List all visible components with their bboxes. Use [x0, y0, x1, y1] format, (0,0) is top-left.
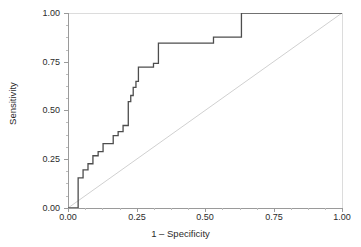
y-tick-label-4: 1.00	[22, 8, 60, 18]
y-axis-title: Sensitivity	[7, 59, 18, 149]
x-minor-tick	[257, 208, 258, 210]
x-tick-label-0: 0.00	[48, 212, 88, 222]
x-minor-tick	[188, 208, 189, 210]
x-minor-tick	[240, 208, 241, 210]
x-minor-tick	[308, 208, 309, 210]
x-minor-tick	[325, 208, 326, 210]
x-minor-tick	[102, 208, 103, 210]
x-minor-tick	[154, 208, 155, 210]
x-minor-tick	[222, 208, 223, 210]
x-minor-tick	[171, 208, 172, 210]
y-tick-label-2: 0.50	[22, 105, 60, 115]
x-tick-label-4: 1.00	[322, 212, 361, 222]
x-minor-tick	[85, 208, 86, 210]
y-tick-label-0: 0.00	[22, 203, 60, 213]
plot-border-right	[342, 13, 343, 209]
x-tick-label-1: 0.25	[117, 212, 157, 222]
x-minor-tick	[291, 208, 292, 210]
y-tick-label-1: 0.25	[22, 154, 60, 164]
x-tick-label-2: 0.50	[185, 212, 225, 222]
plot-svg	[68, 13, 342, 208]
plot-area	[68, 13, 342, 208]
reference-diagonal-line	[68, 13, 342, 208]
y-tick-label-3: 0.75	[22, 57, 60, 67]
x-axis-title: 1 – Specificity	[0, 228, 361, 239]
y-tick-0	[64, 208, 68, 209]
x-minor-tick	[120, 208, 121, 210]
roc-chart: 0.00 0.25 0.50 0.75 1.00 0.00 0.25 0.50 …	[0, 0, 361, 247]
x-tick-label-3: 0.75	[254, 212, 294, 222]
